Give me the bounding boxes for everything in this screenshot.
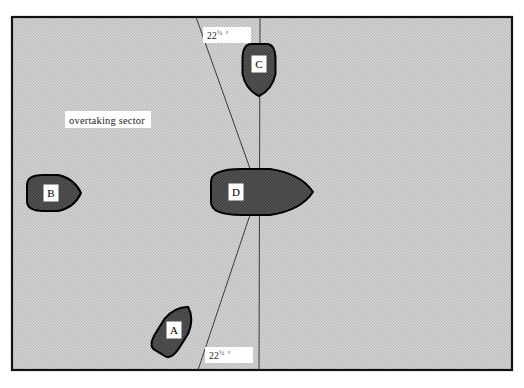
overtaking-sector-label: overtaking sector — [65, 111, 151, 128]
diagram-canvas: overtaking sector 22½° 22½° ABCD — [0, 0, 524, 388]
overtaking-sector-label-text: overtaking sector — [69, 115, 145, 126]
vessel-a-label: A — [170, 324, 178, 336]
overtaking-sector-diagram: overtaking sector 22½° 22½° ABCD — [0, 0, 524, 388]
angle-label-top: 22½° — [203, 27, 251, 43]
vessel-d-label: D — [232, 186, 240, 198]
angle-label-bottom: 22½° — [205, 347, 253, 363]
vessel-c-label: C — [255, 58, 262, 70]
vessel-b-label: B — [47, 187, 54, 199]
